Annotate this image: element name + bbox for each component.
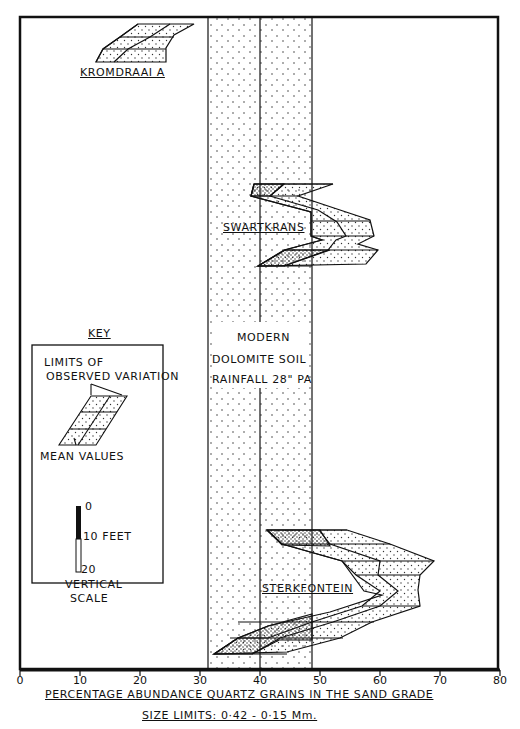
x-tick-label: 10 (73, 674, 87, 687)
x-tick-label: 80 (493, 674, 507, 687)
scale-0-label: 0 (85, 500, 93, 513)
scale-10-label: 10 FEET (83, 530, 132, 543)
modern-label-1: MODERN (237, 331, 290, 344)
x-tick-label: 20 (133, 674, 147, 687)
scale-20-label: 20 (81, 563, 96, 576)
x-axis-subtitle: SIZE LIMITS: 0·42 - 0·15 Mm. (142, 709, 317, 722)
swartkrans-label: SWARTKRANS (223, 221, 305, 234)
modern-label-3: RAINFALL 28" PA (212, 373, 312, 386)
key-mean-label: MEAN VALUES (40, 450, 124, 463)
key-limits-label-1: LIMITS OF (44, 356, 104, 369)
x-axis-title: PERCENTAGE ABUNDANCE QUARTZ GRAINS IN TH… (45, 688, 433, 701)
modern-label-2: DOLOMITE SOIL (212, 353, 306, 366)
kromdraai-profile (96, 24, 194, 62)
key-limits-label-2: OBSERVED VARIATION (46, 370, 179, 383)
x-tick-label: 50 (313, 674, 327, 687)
sterkfontein-label: STERKFONTEIN (262, 582, 353, 595)
x-tick-label: 0 (17, 674, 24, 687)
scale-title-2: SCALE (70, 592, 108, 605)
x-tick-label: 40 (253, 674, 267, 687)
x-tick-label: 30 (193, 674, 207, 687)
scale-title-1: VERTICAL (65, 578, 122, 591)
kromdraai-label: KROMDRAAI A (80, 66, 165, 79)
x-tick-label: 70 (433, 674, 447, 687)
key-title: KEY (88, 327, 111, 340)
x-tick-label: 60 (373, 674, 387, 687)
